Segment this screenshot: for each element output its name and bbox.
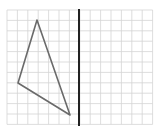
symmetry-grid-diagram bbox=[0, 0, 157, 134]
triangle-shape bbox=[18, 20, 70, 115]
